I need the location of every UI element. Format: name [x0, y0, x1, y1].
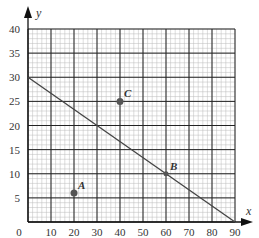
point-c	[117, 98, 124, 105]
y-axis-label: y	[35, 6, 42, 20]
x-tick-label: 90	[230, 226, 242, 238]
x-tick-label: 30	[92, 226, 104, 238]
point-label-c: C	[124, 87, 132, 99]
x-axis-label: x	[245, 204, 252, 218]
y-tick-label: 30	[9, 71, 21, 83]
x-tick-label: 40	[115, 226, 127, 238]
x-tick-label: 70	[184, 226, 196, 238]
x-tick-label: 60	[161, 226, 173, 238]
y-tick-label: 25	[9, 95, 21, 107]
point-label-a: A	[77, 179, 85, 191]
y-tick-label: 10	[9, 168, 21, 180]
point-a	[71, 190, 78, 197]
point-b	[164, 171, 169, 176]
y-tick-label: 5	[15, 192, 21, 204]
origin-label: 0	[16, 226, 22, 238]
x-tick-label: 50	[138, 226, 150, 238]
y-tick-label: 15	[9, 144, 21, 156]
y-axis-arrow-icon	[24, 6, 32, 18]
x-axis-arrow-icon	[241, 218, 253, 226]
y-tick-label: 35	[9, 47, 21, 59]
x-tick-label: 20	[69, 226, 81, 238]
coordinate-grid-chart: yx 0102030405060708090510152025303540 AB…	[0, 0, 259, 238]
x-tick-label: 10	[46, 226, 58, 238]
point-label-b: B	[169, 160, 177, 172]
y-tick-label: 40	[9, 23, 21, 35]
y-tick-label: 20	[9, 120, 21, 132]
x-tick-label: 80	[207, 226, 219, 238]
